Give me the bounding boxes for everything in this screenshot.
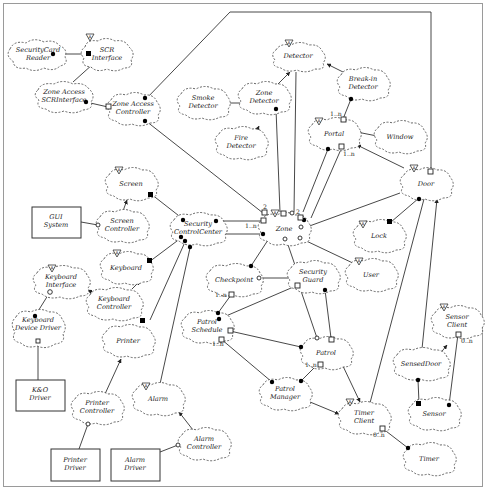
- svg-text:A: A: [317, 118, 321, 124]
- svg-text:Door: Door: [417, 180, 435, 188]
- svg-text:A: A: [50, 265, 54, 271]
- edge-scc-alarm: [160, 248, 190, 384]
- edge-printerdrv-printerctl: [79, 424, 88, 449]
- svg-text:Break-inDetector: Break-inDetector: [347, 75, 378, 91]
- mult-timer-client: 0..n: [373, 431, 385, 438]
- box-alarm-driver[interactable]: AlarmDriver: [111, 449, 160, 481]
- class-label: Detector: [282, 52, 313, 60]
- svg-text:A: A: [412, 165, 416, 171]
- svg-text:SecurityGuard: SecurityGuard: [299, 268, 327, 284]
- class-label: Printer: [115, 337, 140, 345]
- class-screen-controller[interactable]: ScreenController: [96, 210, 149, 243]
- class-label: Door: [417, 180, 435, 188]
- edge-screen-scc: [151, 194, 183, 219]
- svg-text:Detector: Detector: [282, 52, 313, 60]
- class-securitycard-reader[interactable]: SecurityCardReader: [8, 40, 66, 71]
- edge-portal-zone-2: [311, 147, 342, 218]
- class-label: Zone: [275, 225, 293, 233]
- class-door[interactable]: Door: [400, 168, 453, 201]
- class-keyboard-controller[interactable]: KeyboardController: [86, 288, 143, 321]
- box-kdo-driver[interactable]: K&ODriver: [16, 380, 65, 411]
- class-security-controlcenter[interactable]: SecurityControlCenter: [170, 213, 227, 246]
- class-patrol-manager[interactable]: PatrolManager: [259, 378, 312, 411]
- edge-gui-screenctl: [81, 222, 98, 225]
- class-label: Screen: [119, 180, 142, 188]
- mult-portal-breakin: 1..n: [330, 110, 342, 117]
- class-timer[interactable]: Timer: [403, 443, 456, 476]
- edge-breakin-portal: [343, 99, 351, 119]
- mult-portal-zone: 1..n: [343, 150, 355, 157]
- mult-zone-controlcenter: 1..n: [245, 222, 257, 229]
- edge-guard-patrol-1: [300, 288, 317, 338]
- svg-text:A: A: [348, 399, 352, 405]
- class-keyboard[interactable]: Keyboard: [100, 252, 153, 285]
- class-patrol-schedule[interactable]: PatrolSchedule: [181, 311, 234, 344]
- class-alarm-controller[interactable]: AlarmController: [178, 428, 231, 461]
- classes: SecurityCardReader SCRInterface Zone Acc…: [8, 39, 484, 476]
- class-printer[interactable]: Printer: [102, 325, 155, 358]
- svg-text:A: A: [115, 250, 119, 256]
- class-label: Window: [387, 133, 414, 141]
- svg-text:A: A: [287, 40, 291, 46]
- edge-alarmdrv-alarmctl: [160, 445, 178, 452]
- box-printer-driver[interactable]: PrinterDriver: [51, 449, 100, 481]
- svg-text:A: A: [442, 304, 446, 310]
- mult-sensor-client: 0..n: [461, 337, 473, 344]
- class-label: Keyboard: [109, 264, 142, 272]
- mult-zone-top-right: 2: [296, 208, 300, 215]
- class-portal[interactable]: Portal: [308, 118, 361, 151]
- edge-guard-patrol-2: [325, 290, 331, 338]
- class-label: Timer: [419, 455, 440, 463]
- edge-scc-keyboard: [149, 238, 181, 262]
- svg-text:SensorClient: SensorClient: [445, 313, 469, 329]
- edge-schedule-manager: [221, 339, 272, 382]
- class-keyboard-interface[interactable]: KeyboardInterface: [33, 266, 90, 299]
- class-sensedoor[interactable]: SensedDoor: [393, 348, 450, 381]
- svg-text:Zone: Zone: [275, 225, 293, 233]
- box-label: K&ODriver: [28, 386, 51, 402]
- svg-text:Lock: Lock: [370, 232, 387, 240]
- class-alarm[interactable]: Alarm: [132, 383, 185, 416]
- class-fire-detector[interactable]: FireDetector: [215, 127, 268, 160]
- class-zone-access-controller[interactable]: Zone AccessController: [107, 93, 160, 126]
- class-security-guard[interactable]: SecurityGuard: [287, 261, 340, 294]
- edge-alarmctl-alarm: [179, 412, 193, 430]
- class-detector[interactable]: Detector: [273, 43, 326, 72]
- edge-sensorclient-sensor: [449, 334, 458, 405]
- class-zone-access-scrinterface[interactable]: Zone AccessSCRInterface: [35, 82, 93, 113]
- class-zone-detector[interactable]: ZoneDetector: [238, 82, 291, 115]
- svg-text:Printer: Printer: [115, 337, 140, 345]
- svg-text:A: A: [144, 383, 148, 389]
- svg-text:Zone AccessController: Zone AccessController: [111, 100, 154, 116]
- class-label: Alarm: [147, 395, 168, 403]
- edge-sensedoor-door: [421, 199, 437, 359]
- class-break-in-detector[interactable]: Break-inDetector: [337, 68, 390, 101]
- svg-text:A: A: [88, 34, 92, 40]
- edge-door-lock: [391, 198, 419, 222]
- svg-text:A: A: [361, 221, 365, 227]
- svg-text:Portal: Portal: [323, 130, 344, 138]
- edge-printerctl-printer: [105, 359, 121, 394]
- edge-zone-user: [300, 238, 357, 265]
- class-label: Sensor: [422, 410, 446, 418]
- class-label: Portal: [323, 130, 344, 138]
- svg-text:Window: Window: [387, 133, 414, 141]
- edge-portal-zone-1: [303, 149, 328, 212]
- svg-text:TimerClient: TimerClient: [354, 409, 375, 425]
- class-window[interactable]: Window: [374, 121, 427, 154]
- class-printer-controller[interactable]: PrinterController: [71, 392, 124, 425]
- svg-text:Patrol: Patrol: [315, 349, 336, 357]
- mult-checkpoint-schedule: 1..n: [215, 291, 227, 298]
- mult-patrol-manager: 1..n: [305, 361, 317, 368]
- class-label: Patrol: [315, 349, 336, 357]
- svg-text:A: A: [357, 258, 361, 264]
- class-smoke-detector[interactable]: SmokeDetector: [177, 87, 230, 120]
- svg-text:A: A: [117, 167, 121, 173]
- svg-text:Zone AccessSCRInterface: Zone AccessSCRInterface: [41, 88, 86, 104]
- svg-text:Checkpoint: Checkpoint: [215, 276, 253, 284]
- edge-scc-printer: [150, 242, 185, 320]
- class-user[interactable]: User: [345, 259, 398, 292]
- adornments: [33, 51, 461, 450]
- box-gui-system[interactable]: GUISystem: [32, 207, 81, 238]
- class-label: SensedDoor: [401, 360, 442, 368]
